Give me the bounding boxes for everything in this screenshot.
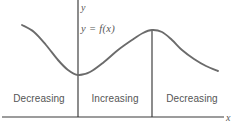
region-label-decreasing-right: Decreasing: [152, 93, 232, 104]
graph-canvas: [0, 0, 237, 126]
y-axis-label: y: [81, 2, 85, 13]
region-label-increasing: Increasing: [78, 93, 152, 104]
region-label-decreasing-left: Decreasing: [0, 93, 78, 104]
x-axis-label: x: [226, 112, 230, 123]
function-curve: [22, 25, 218, 75]
curve-equation-label: y = f(x): [81, 23, 115, 34]
function-graph-figure: y x y = f(x) Decreasing Increasing Decre…: [0, 0, 237, 126]
